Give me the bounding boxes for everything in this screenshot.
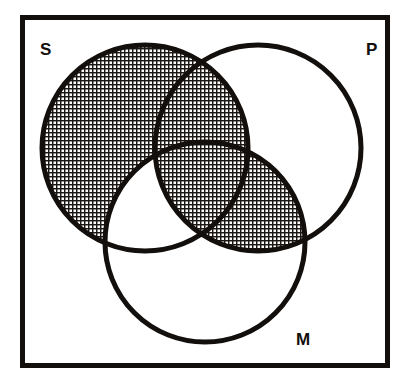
venn-diagram-canvas: S P M	[0, 0, 411, 388]
label-p: P	[366, 40, 378, 59]
label-m: M	[296, 330, 311, 349]
venn-diagram-figure: S P M	[0, 0, 411, 388]
label-s: S	[40, 40, 52, 59]
